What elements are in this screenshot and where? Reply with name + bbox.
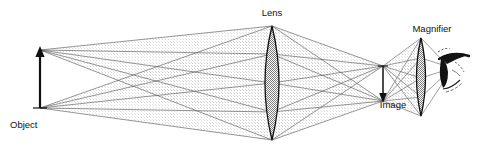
lens-label: Lens [262,7,283,18]
object-label: Object [10,119,38,130]
magnifier-label: Magnifier [412,23,451,34]
ray-diagram-canvas: Object Lens Image Magnifier [0,0,480,148]
optical-diagram: Object Lens Image Magnifier [0,0,480,148]
image-label: Image [380,99,406,110]
